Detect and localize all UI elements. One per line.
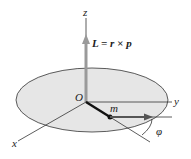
disk: [16, 68, 168, 132]
x-label: x: [11, 137, 17, 149]
mass-label: m: [110, 102, 118, 114]
angular-momentum-diagram: z L = r × p O y x m φ: [0, 0, 191, 159]
L-arrowhead-icon: [82, 34, 90, 44]
equation-label: L = r × p: [91, 37, 132, 49]
angle-label: φ: [156, 125, 162, 137]
z-label: z: [82, 6, 88, 18]
origin-label: O: [75, 91, 83, 103]
y-label: y: [173, 95, 179, 107]
